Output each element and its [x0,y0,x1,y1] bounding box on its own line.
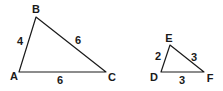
triangle-abc-outline [19,17,106,72]
triangle-abc: A B C 4 6 6 [10,3,116,86]
triangle-def: D E F 2 3 3 [150,32,214,86]
triangle-def-outline [161,45,204,72]
side-length-df: 3 [179,74,185,86]
vertex-label-b: B [32,3,40,15]
vertex-label-d: D [150,71,158,83]
vertex-label-e: E [165,32,172,44]
vertex-label-a: A [10,70,18,82]
side-length-de: 2 [155,50,161,62]
side-length-bc: 6 [75,34,81,46]
similar-triangles-diagram: A B C 4 6 6 D E F 2 3 3 [0,0,223,91]
vertex-label-f: F [207,72,214,84]
vertex-label-c: C [108,71,116,83]
side-length-ef: 3 [191,51,197,63]
side-length-ac: 6 [57,74,63,86]
side-length-ab: 4 [17,35,24,47]
